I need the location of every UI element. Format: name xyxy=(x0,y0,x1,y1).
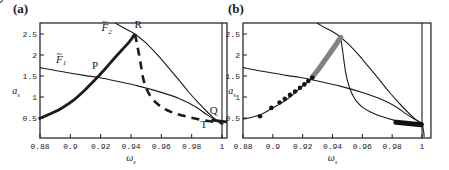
simulation-dot xyxy=(282,96,287,101)
figure: (a) 0.880.90.920.940.960.9810.511.522.5ω… xyxy=(0,0,449,170)
simulation-cluster xyxy=(396,122,421,125)
plot-frame xyxy=(40,23,227,138)
curve-F1 xyxy=(243,68,424,124)
backbone-branch xyxy=(243,37,341,119)
simulation-dot xyxy=(277,100,282,105)
panel-a-plot: 0.880.90.920.940.960.9810.511.522.5ωsasF… xyxy=(0,0,232,170)
y-tick-label: 2.5 xyxy=(226,30,241,39)
label-F1-tilde: ~ xyxy=(56,47,62,59)
panel-b-plot: 0.880.90.920.940.960.9810.511.522.5ωsas xyxy=(225,0,449,170)
simulation-dot xyxy=(306,79,311,84)
y-tick-label: 1 xyxy=(32,93,37,102)
y-tick-label: 2 xyxy=(235,51,240,60)
simulation-dot xyxy=(302,82,307,87)
label-T: T xyxy=(200,118,207,130)
unstable-branch xyxy=(135,34,214,122)
y-axis-label: as xyxy=(228,85,236,98)
label-P: P xyxy=(92,59,98,71)
y-tick-label: 1 xyxy=(235,93,240,102)
x-tick-label: 0.94 xyxy=(323,142,342,151)
curve-F2 xyxy=(317,23,424,137)
y-tick-label: 1.5 xyxy=(23,72,38,81)
x-tick-label: 1 xyxy=(420,142,425,151)
x-tick-label: 0.98 xyxy=(383,142,402,151)
panel-b: (b) 0.880.90.920.940.960.9810.511.522.5ω… xyxy=(225,0,449,170)
simulation-dot xyxy=(298,85,303,90)
label-R: R xyxy=(135,18,143,30)
label-F2-tilde: ~ xyxy=(102,15,108,27)
x-tick-label: 0.9 xyxy=(266,142,281,151)
simulation-dot xyxy=(258,114,263,119)
x-tick-label: 1 xyxy=(220,142,225,151)
stable-branch xyxy=(39,34,135,119)
simulation-dot xyxy=(288,93,293,98)
x-tick-label: 0.92 xyxy=(293,142,312,151)
x-axis-label: ωs xyxy=(328,152,338,165)
x-tick-label: 0.88 xyxy=(233,142,252,151)
x-tick-label: 0.96 xyxy=(152,142,171,151)
x-tick-label: 0.96 xyxy=(353,142,372,151)
x-tick-label: 0.9 xyxy=(63,142,78,151)
y-tick-label: 0.5 xyxy=(23,114,38,123)
simulation-band xyxy=(312,37,340,76)
label-Q: Q xyxy=(210,104,218,116)
x-tick-label: 0.94 xyxy=(121,142,140,151)
x-axis-label: ωs xyxy=(126,152,136,165)
panel-b-label: (b) xyxy=(228,1,244,17)
x-tick-label: 0.88 xyxy=(30,142,49,151)
y-tick-label: 2 xyxy=(32,51,37,60)
simulation-dot xyxy=(310,75,315,80)
x-tick-label: 0.92 xyxy=(91,142,110,151)
curve-F1 xyxy=(40,68,224,124)
y-tick-label: 2.5 xyxy=(23,30,38,39)
panel-a: (a) 0.880.90.920.940.960.9810.511.522.5ω… xyxy=(0,0,232,170)
y-tick-label: 0.5 xyxy=(226,114,241,123)
y-axis-label: as xyxy=(12,85,20,98)
y-tick-label: 1.5 xyxy=(226,72,241,81)
x-tick-label: 0.98 xyxy=(182,142,201,151)
panel-a-label: (a) xyxy=(13,1,28,17)
simulation-dot xyxy=(269,106,274,111)
simulation-dot xyxy=(293,89,298,94)
open-circle-marker xyxy=(0,0,2,2)
